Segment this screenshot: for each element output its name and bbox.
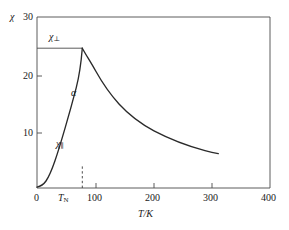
x-tick-label-300: 300 — [203, 193, 218, 203]
x-tick-label-0: 0 — [34, 193, 39, 203]
y-tick-label-10: 10 — [23, 128, 33, 138]
y-axis-title: χ — [10, 12, 14, 22]
annotation-alpha: α — [71, 88, 76, 98]
x-axis-title: T/K — [138, 209, 153, 219]
x-axis-ticks — [96, 183, 212, 188]
annotation-chi-parallel: χ∥ — [56, 139, 64, 150]
alpha-main: α — [71, 87, 76, 98]
y-tick-label-20: 20 — [23, 71, 33, 81]
x-tick-label-neel: TN — [58, 193, 69, 204]
x-tick-label-400: 400 — [261, 193, 276, 203]
susceptibility-chart-figure: χ 30 20 10 0 TN 100 200 300 400 T/K χ⊥ α… — [0, 0, 289, 230]
chi-par-sub: ∥ — [60, 142, 63, 150]
neel-symbol-sub: N — [64, 196, 69, 204]
series-chi-paramagnetic — [82, 48, 218, 153]
annotation-chi-perpendicular: χ⊥ — [49, 32, 60, 43]
chi-perp-sub: ⊥ — [53, 35, 60, 43]
y-tick-label-30: 30 — [23, 12, 33, 22]
x-tick-label-200: 200 — [145, 193, 160, 203]
series-chi-parallel — [37, 48, 82, 187]
y-axis-ticks — [37, 76, 42, 133]
x-tick-label-100: 100 — [87, 193, 102, 203]
